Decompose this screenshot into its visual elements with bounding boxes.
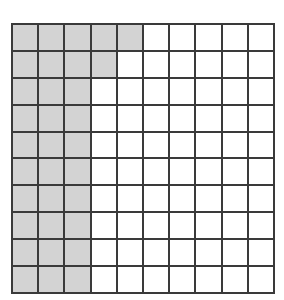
shaded-cell — [13, 159, 39, 186]
grid-cell — [249, 240, 275, 267]
grid-cell — [144, 25, 170, 52]
grid-cell — [170, 79, 196, 106]
shaded-cell — [118, 25, 144, 52]
shaded-cell — [13, 106, 39, 133]
grid-cell — [196, 52, 222, 79]
grid-cell — [196, 240, 222, 267]
shaded-cell — [39, 186, 65, 213]
shaded-cell — [39, 52, 65, 79]
grid-cell — [144, 106, 170, 133]
grid-cell — [92, 240, 118, 267]
grid-cell — [144, 52, 170, 79]
shaded-cell — [39, 213, 65, 240]
grid-cell — [118, 213, 144, 240]
shaded-cell — [13, 79, 39, 106]
grid-cell — [92, 213, 118, 240]
grid-cell — [118, 186, 144, 213]
grid-cell — [196, 267, 222, 294]
grid-cell — [144, 213, 170, 240]
shaded-cell — [39, 267, 65, 294]
shaded-cell — [65, 267, 91, 294]
shaded-cell — [39, 240, 65, 267]
grid-cell — [223, 240, 249, 267]
shaded-cell — [13, 25, 39, 52]
grid-cell — [223, 133, 249, 160]
shaded-cell — [39, 79, 65, 106]
grid-cell — [170, 25, 196, 52]
grid-cell — [249, 52, 275, 79]
shaded-cell — [13, 267, 39, 294]
grid-cell — [118, 159, 144, 186]
shaded-cell — [13, 52, 39, 79]
grid-cell — [92, 79, 118, 106]
grid-cell — [223, 213, 249, 240]
grid-cell — [223, 159, 249, 186]
shaded-cell — [65, 159, 91, 186]
grid-cell — [118, 79, 144, 106]
grid-cell — [118, 240, 144, 267]
grid-cell — [196, 133, 222, 160]
shaded-cell — [39, 106, 65, 133]
grid-cell — [118, 106, 144, 133]
grid-cell — [92, 159, 118, 186]
shaded-cell — [92, 52, 118, 79]
grid-cell — [223, 186, 249, 213]
grid-cell — [249, 186, 275, 213]
grid-cell — [196, 213, 222, 240]
grid-cell — [170, 267, 196, 294]
grid-cell — [223, 267, 249, 294]
grid-cell — [170, 186, 196, 213]
grid-cell — [223, 52, 249, 79]
grid-cell — [118, 52, 144, 79]
hundred-grid — [11, 23, 275, 294]
grid-cell — [144, 79, 170, 106]
grid-cell — [118, 267, 144, 294]
grid-cell — [196, 25, 222, 52]
grid-cell — [196, 186, 222, 213]
shaded-cell — [13, 186, 39, 213]
grid-cell — [249, 79, 275, 106]
shaded-cell — [65, 240, 91, 267]
grid-cell — [170, 52, 196, 79]
shaded-cell — [13, 240, 39, 267]
shaded-cell — [13, 213, 39, 240]
grid-cell — [249, 25, 275, 52]
grid-cell — [249, 213, 275, 240]
grid-cell — [118, 133, 144, 160]
grid-cell — [92, 267, 118, 294]
grid-cell — [144, 186, 170, 213]
grid-cell — [92, 106, 118, 133]
shaded-cell — [65, 79, 91, 106]
grid-cell — [170, 213, 196, 240]
grid-cell — [170, 106, 196, 133]
grid-cell — [196, 159, 222, 186]
grid-cell — [223, 79, 249, 106]
grid-cell — [144, 267, 170, 294]
shaded-cell — [65, 106, 91, 133]
grid-cell — [144, 133, 170, 160]
grid-cell — [223, 25, 249, 52]
grid-cell — [249, 133, 275, 160]
grid-cell — [196, 79, 222, 106]
grid-cell — [170, 159, 196, 186]
grid-cell — [249, 159, 275, 186]
grid-cell — [144, 240, 170, 267]
shaded-cell — [65, 133, 91, 160]
shaded-cell — [39, 25, 65, 52]
shaded-cell — [39, 133, 65, 160]
shaded-cell — [65, 52, 91, 79]
shaded-cell — [65, 213, 91, 240]
grid-cell — [92, 186, 118, 213]
shaded-cell — [13, 133, 39, 160]
grid-cell — [144, 159, 170, 186]
grid-cell — [92, 133, 118, 160]
shaded-cell — [92, 25, 118, 52]
shaded-cell — [65, 25, 91, 52]
grid-cell — [223, 106, 249, 133]
grid-cell — [249, 267, 275, 294]
shaded-cell — [39, 159, 65, 186]
grid-cell — [170, 240, 196, 267]
grid-cell — [249, 106, 275, 133]
shaded-cell — [65, 186, 91, 213]
grid-cell — [170, 133, 196, 160]
